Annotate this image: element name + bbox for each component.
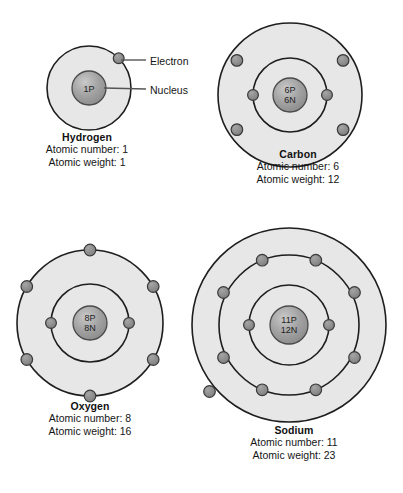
oxygen-atomic-number: Atomic number: 8 (2, 412, 178, 424)
carbon-nucleus-protons-label: 6P (284, 85, 295, 95)
carbon-element-name: Carbon (193, 148, 403, 160)
nucleus-leader-line (104, 88, 146, 89)
sodium-element-name: Sodium (186, 424, 402, 436)
oxygen-atomic-weight: Atomic weight: 16 (2, 425, 178, 437)
sodium-atomic-number: Atomic number: 11 (186, 436, 402, 448)
oxygen-electron-outer-2 (147, 281, 159, 293)
sodium-electron-shell2-8 (310, 384, 322, 396)
nucleus-callout-label: Nucleus (150, 84, 188, 96)
oxygen-nucleus-neutrons-label: 8N (84, 323, 96, 333)
sodium-electron-shell2-3 (218, 287, 230, 299)
sodium-nucleus-protons-label: 11P (281, 315, 296, 325)
sodium-electron-shell2-6 (349, 352, 361, 364)
hydrogen-atomic-weight: Atomic weight: 1 (12, 156, 162, 168)
oxygen-electron-inner-1 (46, 318, 57, 329)
carbon-atomic-number: Atomic number: 6 (193, 160, 403, 172)
hydrogen-atomic-number: Atomic number: 1 (12, 143, 162, 155)
carbon-nucleus-neutrons-label: 6N (284, 95, 296, 105)
oxygen-nucleus-protons-label: 8P (84, 313, 95, 323)
atomic-structure-diagram: 1P 6P 6N 8P (0, 0, 403, 493)
hydrogen-element-name: Hydrogen (12, 131, 162, 143)
sodium-electron-shell2-5 (218, 352, 230, 364)
carbon-atomic-weight: Atomic weight: 12 (193, 173, 403, 185)
carbon-electron-outer-3 (231, 124, 243, 136)
caption-hydrogen: Hydrogen Atomic number: 1 Atomic weight:… (12, 131, 162, 168)
sodium-electron-shell2-7 (256, 384, 268, 396)
caption-oxygen: Oxygen Atomic number: 8 Atomic weight: 1… (2, 400, 178, 437)
carbon-electron-outer-1 (231, 55, 243, 67)
carbon-electron-outer-4 (337, 124, 349, 136)
atom-oxygen: 8P 8N (17, 244, 163, 402)
carbon-electron-inner-2 (322, 90, 333, 101)
atom-carbon: 6P 6N (218, 23, 362, 167)
sodium-electron-shell1-2 (324, 320, 335, 331)
sodium-electron-shell2-4 (349, 287, 361, 299)
sodium-atomic-weight: Atomic weight: 23 (186, 449, 402, 461)
oxygen-electron-outer-6 (21, 281, 33, 293)
oxygen-electron-outer-1 (84, 244, 96, 256)
sodium-nucleus-neutrons-label: 12N (281, 325, 298, 335)
carbon-electron-outer-2 (337, 55, 349, 67)
sodium-electron-shell2-2 (310, 254, 322, 266)
electron-callout-label: Electron (150, 55, 189, 67)
caption-sodium: Sodium Atomic number: 11 Atomic weight: … (186, 424, 402, 461)
oxygen-electron-inner-2 (124, 318, 135, 329)
atom-sodium: 11P 12N (192, 228, 386, 422)
hydrogen-electron (113, 53, 124, 64)
caption-carbon: Carbon Atomic number: 6 Atomic weight: 1… (193, 148, 403, 185)
hydrogen-nucleus-protons-label: 1P (83, 84, 94, 94)
oxygen-electron-outer-5 (21, 354, 33, 366)
oxygen-electron-outer-3 (147, 354, 159, 366)
sodium-electron-shell1-1 (244, 320, 255, 331)
sodium-electron-shell3-1 (204, 386, 216, 398)
oxygen-element-name: Oxygen (2, 400, 178, 412)
sodium-electron-shell2-1 (256, 254, 268, 266)
carbon-electron-inner-1 (248, 90, 259, 101)
